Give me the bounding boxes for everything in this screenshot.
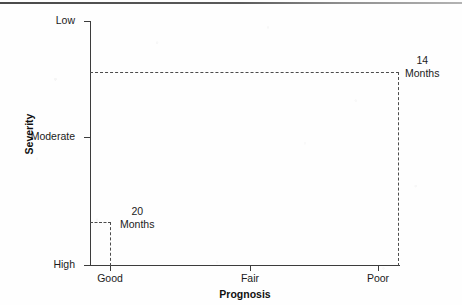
- x-tick-poor: [378, 265, 379, 271]
- y-axis-line: [90, 21, 91, 266]
- annotation-20-months: 20 Months: [120, 205, 154, 230]
- x-axis-line: [90, 265, 400, 266]
- annotation-20-number: 20: [120, 205, 154, 218]
- y-tick-label-moderate: Moderate: [0, 131, 75, 142]
- annotation-20-unit: Months: [120, 218, 154, 231]
- x-tick-label-poor: Poor: [338, 272, 418, 284]
- x-tick-fair: [250, 265, 251, 271]
- x-tick-label-fair: Fair: [210, 272, 290, 284]
- guide-line-vertical-14months: [398, 72, 399, 266]
- y-tick-label-high: High: [0, 259, 75, 270]
- annotation-14-number: 14: [405, 54, 439, 67]
- guide-line-vertical-20months: [110, 222, 111, 266]
- y-tick-label-low: Low: [0, 15, 75, 26]
- guide-line-horizontal-20months: [90, 222, 111, 223]
- y-tick-moderate: [84, 137, 90, 138]
- annotation-14-unit: Months: [405, 67, 439, 80]
- y-tick-high: [84, 265, 90, 266]
- x-tick-label-good: Good: [70, 272, 150, 284]
- y-tick-low: [84, 21, 90, 22]
- guide-line-horizontal-14months: [90, 72, 399, 73]
- annotation-14-months: 14 Months: [405, 54, 439, 79]
- y-axis-title: Severity: [23, 94, 35, 174]
- chart-plot-area: Low Moderate High Good Fair Poor Severit…: [0, 0, 462, 305]
- figure-page: Low Moderate High Good Fair Poor Severit…: [0, 0, 462, 305]
- x-axis-title: Prognosis: [90, 288, 400, 300]
